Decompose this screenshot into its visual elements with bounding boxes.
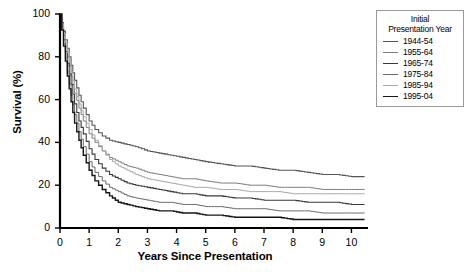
x-tick-label: 1 <box>79 236 99 248</box>
legend-item: 1944-54 <box>379 36 461 47</box>
x-tick-label: 4 <box>167 236 187 248</box>
x-tick-label: 9 <box>312 236 332 248</box>
legend-swatch <box>383 96 398 97</box>
legend-label: 1955-64 <box>403 47 433 58</box>
survival-chart-figure: Survival (%) Years Since Presentation 02… <box>0 0 470 272</box>
legend-item: 1995-04 <box>379 91 461 102</box>
y-tick-label: 40 <box>16 135 50 147</box>
legend-item: 1975-84 <box>379 69 461 80</box>
legend-entries: 1944-541955-641965-741975-841985-941995-… <box>379 36 461 102</box>
y-tick-label: 60 <box>16 93 50 105</box>
legend-label: 1965-74 <box>403 58 433 69</box>
legend-label: 1944-54 <box>403 36 433 47</box>
legend-item: 1965-74 <box>379 58 461 69</box>
axis-ticks <box>55 14 351 233</box>
legend-item: 1955-64 <box>379 47 461 58</box>
legend-item: 1985-94 <box>379 80 461 91</box>
legend-swatch <box>383 63 398 64</box>
x-tick-label: 7 <box>254 236 274 248</box>
x-tick-label: 2 <box>108 236 128 248</box>
x-axis-label: Years Since Presentation <box>40 250 370 262</box>
legend-swatch <box>383 85 398 86</box>
y-tick-label: 100 <box>16 7 50 19</box>
legend-label: 1985-94 <box>403 80 433 91</box>
x-tick-label: 5 <box>196 236 216 248</box>
legend-title-line1: Initial <box>379 14 461 24</box>
x-tick-label: 10 <box>341 236 361 248</box>
legend-label: 1995-04 <box>403 91 433 102</box>
x-tick-label: 0 <box>50 236 70 248</box>
y-tick-label: 20 <box>16 178 50 190</box>
legend-swatch <box>383 52 398 53</box>
survival-curves <box>60 14 365 219</box>
legend-title-line2: Presentation Year <box>379 24 461 34</box>
legend: Initial Presentation Year 1944-541955-64… <box>376 10 464 107</box>
legend-label: 1975-84 <box>403 69 433 80</box>
x-tick-label: 6 <box>225 236 245 248</box>
x-tick-label: 8 <box>283 236 303 248</box>
x-tick-label: 3 <box>137 236 157 248</box>
legend-swatch <box>383 41 398 42</box>
y-tick-label: 0 <box>16 221 50 233</box>
legend-swatch <box>383 74 398 75</box>
y-tick-label: 80 <box>16 50 50 62</box>
